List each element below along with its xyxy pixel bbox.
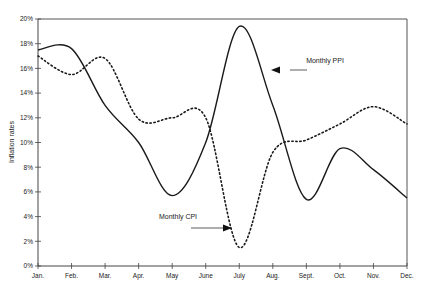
ppi-arrow-head-icon: [271, 67, 280, 74]
x-tick-label: Jan.: [32, 272, 44, 279]
cpi-annotation-label: Monthly CPI: [159, 213, 197, 221]
series-lines: [38, 26, 407, 248]
x-tick-label: May: [166, 272, 179, 280]
x-tick-label: June: [199, 272, 213, 279]
y-tick-label: 0%: [24, 262, 34, 269]
inflation-chart: 0%2%4%6%8%10%12%14%16%18%20% Jan.Feb.Mar…: [0, 0, 427, 292]
x-tick-label: Dec.: [400, 272, 414, 279]
annotations: Monthly PPIMonthly CPI: [159, 57, 344, 232]
x-tick-label: July: [233, 272, 245, 280]
y-tick-label: 20%: [20, 15, 33, 22]
y-tick-label: 12%: [20, 114, 33, 121]
x-tick-label: Oct.: [334, 272, 346, 279]
y-tick-label: 6%: [24, 188, 34, 195]
y-axis-title: Inflation rates: [8, 120, 15, 163]
ppi-annotation-label: Monthly PPI: [306, 57, 344, 65]
y-tick-label: 2%: [24, 238, 34, 245]
x-tick-label: Mar.: [99, 272, 112, 279]
plot-frame: [38, 19, 407, 266]
x-tick-label: Aug.: [266, 272, 280, 280]
x-tick-label: Feb.: [65, 272, 78, 279]
y-tick-label: 14%: [20, 89, 33, 96]
y-tick-label: 16%: [20, 65, 33, 72]
x-tick-label: Sept.: [299, 272, 314, 280]
y-tick-label: 10%: [20, 139, 33, 146]
x-tick-label: Nov.: [367, 272, 380, 279]
y-tick-label: 8%: [24, 164, 34, 171]
y-tick-label: 4%: [24, 213, 34, 220]
ppi-line: [38, 26, 407, 200]
y-tick-label: 18%: [20, 40, 33, 47]
x-tick-label: Apr.: [133, 272, 145, 280]
